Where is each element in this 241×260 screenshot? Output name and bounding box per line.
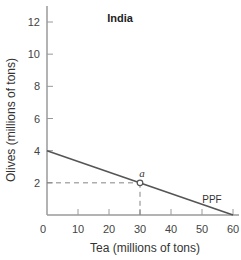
y-tick-label: 8 xyxy=(34,80,40,92)
x-tick-label: 30 xyxy=(134,223,146,235)
x-tick-label: 50 xyxy=(196,223,208,235)
y-tick-label: 12 xyxy=(28,16,40,28)
y-tick-label: 6 xyxy=(34,113,40,125)
y-tick-label: 10 xyxy=(28,48,40,60)
y-tick-label: 4 xyxy=(34,145,40,157)
chart-title: India xyxy=(107,12,134,24)
ppf-label: PPF xyxy=(202,194,221,205)
series: PPFa xyxy=(47,151,233,215)
x-tick-label: 10 xyxy=(72,223,84,235)
x-tick-label: 0 xyxy=(40,223,46,235)
x-tick-label: 60 xyxy=(227,223,239,235)
point-a-label: a xyxy=(139,167,145,179)
x-axis-label: Tea (millions of tons) xyxy=(90,241,200,255)
ppf-chart: 010203040506024681012 PPFa India Tea (mi… xyxy=(0,0,241,260)
y-axis-label: Olives (millions of tons) xyxy=(4,58,18,182)
x-tick-label: 20 xyxy=(103,223,115,235)
x-tick-label: 40 xyxy=(165,223,177,235)
point-a-marker xyxy=(137,180,143,186)
y-tick-label: 2 xyxy=(34,177,40,189)
